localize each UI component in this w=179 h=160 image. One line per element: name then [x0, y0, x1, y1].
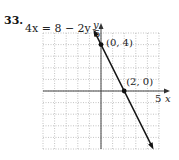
data-point	[122, 89, 127, 94]
data-point	[99, 42, 104, 47]
point-label: (0, 4)	[106, 37, 133, 48]
point-label: (2, 0)	[126, 76, 153, 87]
y-tick-label: 5	[94, 28, 100, 39]
graph: (0, 4)(2, 0) x y 5 5	[0, 0, 179, 160]
points: (0, 4)(2, 0)	[99, 37, 154, 94]
x-axis-label: x	[165, 93, 171, 104]
x-tick-label: 5	[155, 93, 161, 104]
